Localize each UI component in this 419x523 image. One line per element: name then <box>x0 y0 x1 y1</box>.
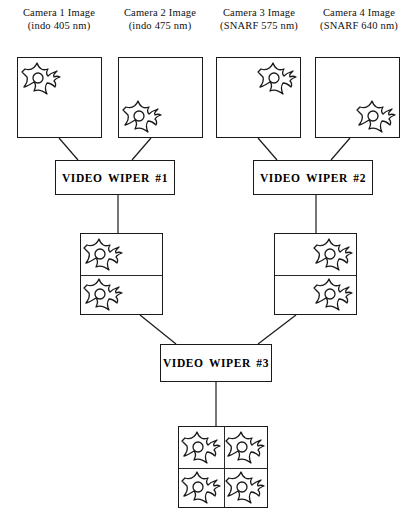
camera-1-label: Camera 1 Image (indo 405 nm) <box>3 6 115 32</box>
cell-icon <box>313 276 355 314</box>
camera-4-label-line2: (SNARF 640 nm) <box>302 19 416 32</box>
video-wiper-1-label: VIDEO WIPER #1 <box>62 172 168 184</box>
cell-icon <box>257 60 299 98</box>
video-wiper-3-box[interactable]: VIDEO WIPER #3 <box>160 344 272 382</box>
camera-3-image-box <box>216 57 301 138</box>
video-wiper-1-box[interactable]: VIDEO WIPER #1 <box>55 160 175 195</box>
cell-icon <box>181 469 223 507</box>
cell-icon <box>21 60 63 98</box>
camera-2-label-line1: Camera 2 Image <box>104 6 216 19</box>
video-wiper-2-box[interactable]: VIDEO WIPER #2 <box>253 160 373 195</box>
camera-3-label-line1: Camera 3 Image <box>202 6 316 19</box>
cell-icon <box>181 429 223 467</box>
wiper-3-output-box <box>178 426 268 508</box>
cell-icon <box>313 236 355 274</box>
video-wiper-2-label: VIDEO WIPER #2 <box>260 172 366 184</box>
quad-vertical-divider <box>224 427 225 507</box>
camera-4-label: Camera 4 Image (SNARF 640 nm) <box>302 6 416 32</box>
camera-3-label: Camera 3 Image (SNARF 575 nm) <box>202 6 316 32</box>
cell-icon <box>225 429 267 467</box>
cell-icon <box>356 98 398 136</box>
cell-icon <box>83 236 125 274</box>
video-wiper-3-label: VIDEO WIPER #3 <box>163 357 269 369</box>
cell-icon <box>83 276 125 314</box>
quad-horizontal-divider <box>179 468 267 469</box>
wiper-2-output-box <box>274 233 357 315</box>
camera-1-image-box <box>17 57 102 138</box>
split-divider <box>81 275 162 276</box>
wiper-1-output-box <box>80 233 163 315</box>
camera-2-label: Camera 2 Image (indo 475 nm) <box>104 6 216 32</box>
camera-3-label-line2: (SNARF 575 nm) <box>202 19 316 32</box>
camera-4-label-line1: Camera 4 Image <box>302 6 416 19</box>
camera-2-label-line2: (indo 475 nm) <box>104 19 216 32</box>
cell-icon <box>225 469 267 507</box>
camera-1-label-line1: Camera 1 Image <box>3 6 115 19</box>
camera-1-label-line2: (indo 405 nm) <box>3 19 115 32</box>
split-divider <box>275 275 356 276</box>
cell-icon <box>122 98 164 136</box>
camera-4-image-box <box>315 57 400 138</box>
diagram-canvas: Camera 1 Image (indo 405 nm) Camera 2 Im… <box>0 0 419 523</box>
camera-2-image-box <box>118 57 203 138</box>
